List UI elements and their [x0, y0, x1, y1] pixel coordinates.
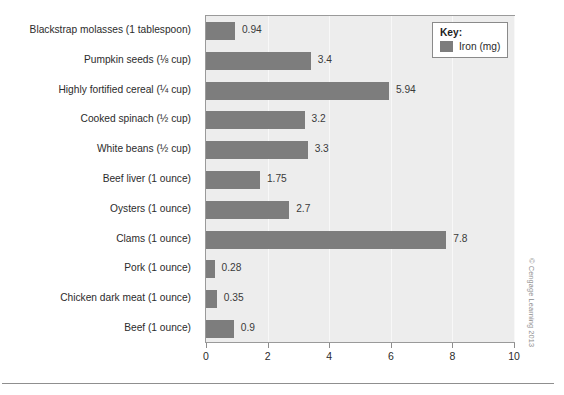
legend-swatch-icon: [440, 41, 453, 52]
bar[interactable]: [206, 52, 311, 70]
plot-area: 0.943.45.943.23.31.752.77.80.280.350.9: [205, 15, 515, 343]
tick-label: 4: [326, 350, 332, 362]
bar[interactable]: [206, 290, 217, 308]
category-label: Chicken dark meat (1 ounce): [0, 292, 191, 303]
tick-mark: [452, 343, 453, 348]
bar-row[interactable]: 2.7: [206, 201, 514, 219]
bar[interactable]: [206, 231, 446, 249]
category-label: Clams (1 ounce): [0, 233, 191, 244]
bar-value-label: 5.94: [396, 84, 416, 95]
iron-content-bar-chart: Blackstrap molasses (1 tablespoon)Pumpki…: [0, 0, 564, 395]
bar-row[interactable]: 0.35: [206, 290, 514, 308]
category-label: Highly fortified cereal (¼ cup): [0, 84, 191, 95]
bar[interactable]: [206, 201, 289, 219]
bar-row[interactable]: 3.2: [206, 111, 514, 129]
bar-row[interactable]: 0.9: [206, 320, 514, 338]
bar-row[interactable]: 5.94: [206, 82, 514, 100]
bar-value-label: 3.2: [312, 113, 326, 124]
bar-row[interactable]: 0.28: [206, 260, 514, 278]
bar-value-label: 1.75: [267, 173, 287, 184]
legend-key-box: Key: Iron (mg): [432, 22, 508, 58]
category-label-column: Blackstrap molasses (1 tablespoon)Pumpki…: [0, 15, 198, 343]
bar[interactable]: [206, 22, 235, 40]
bar-value-label: 2.7: [296, 203, 310, 214]
legend-title: Key:: [440, 27, 500, 38]
copyright-credit: © Cengage Learning 2013: [527, 258, 536, 347]
bar-row[interactable]: 3.3: [206, 141, 514, 159]
bar[interactable]: [206, 141, 308, 159]
bar[interactable]: [206, 260, 215, 278]
tick-mark: [391, 343, 392, 348]
gridline: [514, 16, 515, 342]
bar-value-label: 0.28: [222, 262, 242, 273]
category-label: Oysters (1 ounce): [0, 203, 191, 214]
tick-mark: [329, 343, 330, 348]
tick-label: 10: [508, 350, 520, 362]
tick-label: 0: [203, 350, 209, 362]
bar-value-label: 7.8: [453, 233, 467, 244]
category-label: White beans (½ cup): [0, 143, 191, 154]
tick-label: 2: [265, 350, 271, 362]
tick-label: 8: [449, 350, 455, 362]
tick-label: 6: [388, 350, 394, 362]
x-axis-tick-marks: [205, 343, 515, 349]
bar[interactable]: [206, 82, 389, 100]
category-label: Beef (1 ounce): [0, 322, 191, 333]
tick-mark: [514, 343, 515, 348]
category-label: Blackstrap molasses (1 tablespoon): [0, 24, 191, 35]
bar-value-label: 0.35: [224, 292, 244, 303]
bar-row[interactable]: 1.75: [206, 171, 514, 189]
legend-entry-iron: Iron (mg): [440, 41, 500, 52]
category-label: Cooked spinach (½ cup): [0, 113, 191, 124]
bar[interactable]: [206, 111, 305, 129]
bar-value-label: 3.4: [318, 54, 332, 65]
tick-mark: [206, 343, 207, 348]
category-label: Pumpkin seeds (⅛ cup): [0, 54, 191, 65]
bar[interactable]: [206, 171, 260, 189]
bottom-divider-rule: [2, 383, 554, 384]
category-label: Beef liver (1 ounce): [0, 173, 191, 184]
legend-entry-label: Iron (mg): [459, 41, 500, 52]
bar[interactable]: [206, 320, 234, 338]
bar-value-label: 3.3: [315, 143, 329, 154]
bar-row[interactable]: 7.8: [206, 231, 514, 249]
bar-value-label: 0.9: [241, 322, 255, 333]
bar-value-label: 0.94: [242, 24, 262, 35]
x-axis-tick-labels: 0246810: [205, 350, 515, 364]
category-label: Pork (1 ounce): [0, 262, 191, 273]
tick-mark: [268, 343, 269, 348]
